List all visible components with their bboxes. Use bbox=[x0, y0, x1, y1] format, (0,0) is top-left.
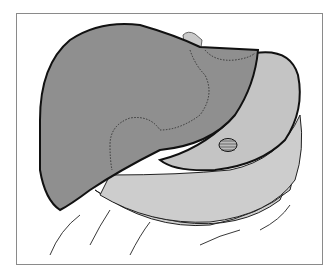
anatomy-illustration bbox=[0, 0, 333, 275]
hatched-lesion bbox=[219, 139, 237, 152]
